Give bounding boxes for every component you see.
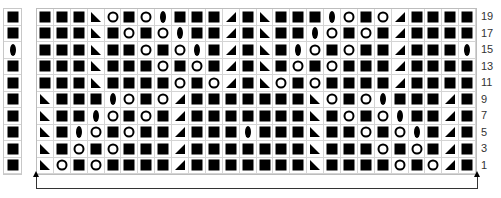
chart-row (37, 158, 476, 175)
chart-cell (138, 59, 155, 76)
chart-cell (257, 26, 274, 43)
right-triangle-icon (226, 12, 236, 22)
chart-cell (189, 158, 206, 175)
chart-cell (71, 158, 88, 175)
edge-row (4, 125, 21, 142)
open-circle-icon (158, 28, 169, 39)
filled-square-icon (343, 94, 354, 105)
open-circle-icon (360, 28, 371, 39)
chart-cell (459, 26, 476, 43)
chart-cell (172, 158, 189, 175)
chart-cell (257, 42, 274, 59)
filled-square-icon (175, 61, 186, 72)
chart-cell (206, 75, 223, 92)
chart-cell (138, 141, 155, 158)
chart-cell (155, 141, 172, 158)
chart-cell (206, 125, 223, 142)
chart-cell (425, 26, 442, 43)
filled-square-icon (462, 94, 473, 105)
filled-square-icon (191, 127, 202, 138)
filled-square-icon (7, 11, 18, 22)
chart-cell (324, 75, 341, 92)
chart-cell (189, 26, 206, 43)
chart-cell (459, 108, 476, 125)
open-circle-icon (377, 143, 388, 154)
filled-square-icon (107, 44, 118, 55)
chart-cell (358, 158, 375, 175)
chart-cell (358, 125, 375, 142)
chart-cell (307, 26, 324, 43)
chart-cell (105, 9, 122, 26)
chart-row (37, 92, 476, 109)
open-circle-icon (124, 28, 135, 39)
chart-cell (290, 75, 307, 92)
chart-cell (54, 26, 71, 43)
chart-cell (206, 26, 223, 43)
chart-cell (257, 125, 274, 142)
chart-cell (54, 125, 71, 142)
open-circle-icon (377, 110, 388, 121)
chart-cell (273, 26, 290, 43)
left-triangle-icon (310, 111, 320, 121)
chart-cell (273, 92, 290, 109)
chart-cell (358, 92, 375, 109)
diamond-icon (312, 27, 318, 39)
chart-cell (442, 59, 459, 76)
filled-square-icon (158, 77, 169, 88)
chart-cell (257, 75, 274, 92)
chart-cell (37, 141, 54, 158)
chart-cell (425, 75, 442, 92)
chart-row (37, 42, 476, 59)
filled-square-icon (124, 143, 135, 154)
chart-cell (223, 75, 240, 92)
chart-cell (37, 92, 54, 109)
filled-square-icon (56, 127, 67, 138)
chart-cell (240, 158, 257, 175)
filled-square-icon (7, 94, 18, 105)
chart-cell (138, 26, 155, 43)
right-triangle-icon (395, 78, 405, 88)
chart-cell (155, 59, 172, 76)
chart-cell (54, 108, 71, 125)
filled-square-icon (327, 77, 338, 88)
filled-square-icon (411, 44, 422, 55)
chart-cell (4, 158, 21, 175)
filled-square-icon (208, 127, 219, 138)
filled-square-icon (377, 77, 388, 88)
left-triangle-icon (310, 144, 320, 154)
chart-cell (341, 42, 358, 59)
chart-cell (459, 125, 476, 142)
chart-cell (155, 92, 172, 109)
chart-cell (392, 141, 409, 158)
chart-cell (341, 158, 358, 175)
diamond-icon (10, 44, 16, 56)
chart-cell (273, 125, 290, 142)
chart-cell (392, 42, 409, 59)
filled-square-icon (462, 110, 473, 121)
chart-cell (138, 42, 155, 59)
chart-cell (392, 59, 409, 76)
chart-cell (121, 141, 138, 158)
chart-cell (459, 42, 476, 59)
chart-cell (4, 42, 21, 59)
chart-cell (425, 141, 442, 158)
filled-square-icon (225, 143, 236, 154)
filled-square-icon (293, 28, 304, 39)
filled-square-icon (428, 110, 439, 121)
open-circle-icon (90, 160, 101, 171)
chart-cell (4, 92, 21, 109)
filled-square-icon (73, 94, 84, 105)
left-triangle-icon (260, 61, 270, 71)
chart-cell (392, 9, 409, 26)
filled-square-icon (411, 110, 422, 121)
chart-cell (4, 141, 21, 158)
open-circle-icon (158, 61, 169, 72)
filled-square-icon (394, 143, 405, 154)
filled-square-icon (225, 160, 236, 171)
filled-square-icon (56, 28, 67, 39)
chart-cell (121, 92, 138, 109)
open-circle-icon (141, 11, 152, 22)
chart-cell (409, 141, 426, 158)
chart-cell (341, 92, 358, 109)
chart-cell (4, 125, 21, 142)
